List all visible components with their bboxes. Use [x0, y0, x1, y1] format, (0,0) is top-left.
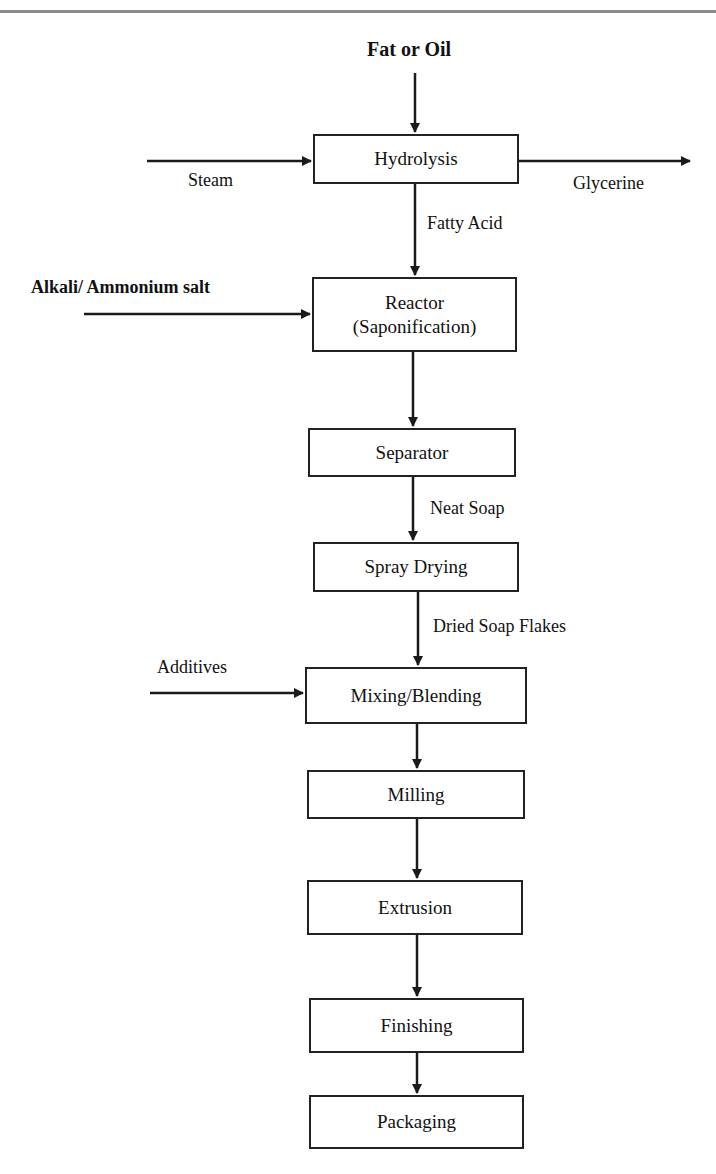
step-label: Milling [387, 783, 444, 807]
step-extrusion: Extrusion [307, 880, 523, 935]
input-steam-label: Steam [188, 170, 233, 191]
step-label: Reactor [385, 291, 444, 315]
step-label: Finishing [381, 1014, 453, 1038]
edge-label-neat-soap: Neat Soap [430, 498, 504, 519]
step-label: Packaging [377, 1110, 456, 1134]
step-mixing-blending: Mixing/Blending [305, 667, 527, 724]
step-label: Mixing/Blending [351, 684, 482, 708]
edge-label-fatty-acid: Fatty Acid [427, 213, 503, 234]
step-separator: Separator [308, 428, 516, 477]
step-sublabel: (Saponification) [353, 315, 476, 339]
step-reactor: Reactor (Saponification) [312, 277, 517, 352]
step-spray-drying: Spray Drying [313, 542, 519, 592]
step-packaging: Packaging [309, 1095, 524, 1149]
input-fat-or-oil-label: Fat or Oil [367, 38, 451, 61]
step-label: Extrusion [378, 896, 452, 920]
output-glycerine-label: Glycerine [573, 173, 644, 194]
step-label: Separator [376, 441, 449, 465]
input-additives-label: Additives [157, 657, 227, 678]
edge-label-dried-soap-flakes: Dried Soap Flakes [433, 616, 566, 637]
step-finishing: Finishing [309, 998, 524, 1053]
input-alkali-label: Alkali/ Ammonium salt [31, 277, 210, 298]
step-hydrolysis: Hydrolysis [313, 134, 519, 184]
step-label: Spray Drying [365, 555, 468, 579]
step-label: Hydrolysis [374, 147, 457, 171]
step-milling: Milling [307, 770, 525, 819]
